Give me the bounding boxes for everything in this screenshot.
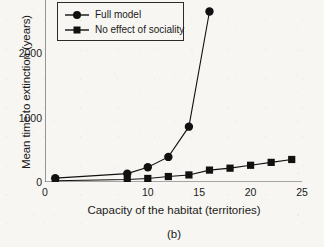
x-tick-label-10: 10 [135, 186, 161, 198]
figure-caption: (b) [45, 228, 303, 240]
circle-marker-icon [64, 9, 90, 21]
chart-legend: Full model No effect of sociality [57, 2, 184, 41]
x-tick-label-20: 20 [238, 186, 264, 198]
figure-panel-b: Mean time to extinction (years) 01000200… [0, 0, 324, 247]
legend-item-full-model: Full model [64, 7, 183, 22]
legend-label-no-effect-of-sociality: No effect of sociality [95, 24, 184, 35]
x-tick-label-25: 25 [289, 186, 315, 198]
x-axis-label: Capacity of the habitat (territories) [45, 204, 303, 216]
y-tick-label-2000: 2000 [8, 48, 42, 58]
x-tick-label-15: 15 [186, 186, 212, 198]
y-tick-label-1000: 1000 [8, 113, 42, 123]
legend-label-full-model: Full model [95, 9, 141, 20]
legend-item-no-effect-of-sociality: No effect of sociality [64, 22, 183, 37]
x-tick-label-0: 0 [32, 186, 58, 198]
y-axis-tick-labels: 0100020003000 [6, 0, 42, 193]
square-marker-icon [64, 24, 90, 36]
